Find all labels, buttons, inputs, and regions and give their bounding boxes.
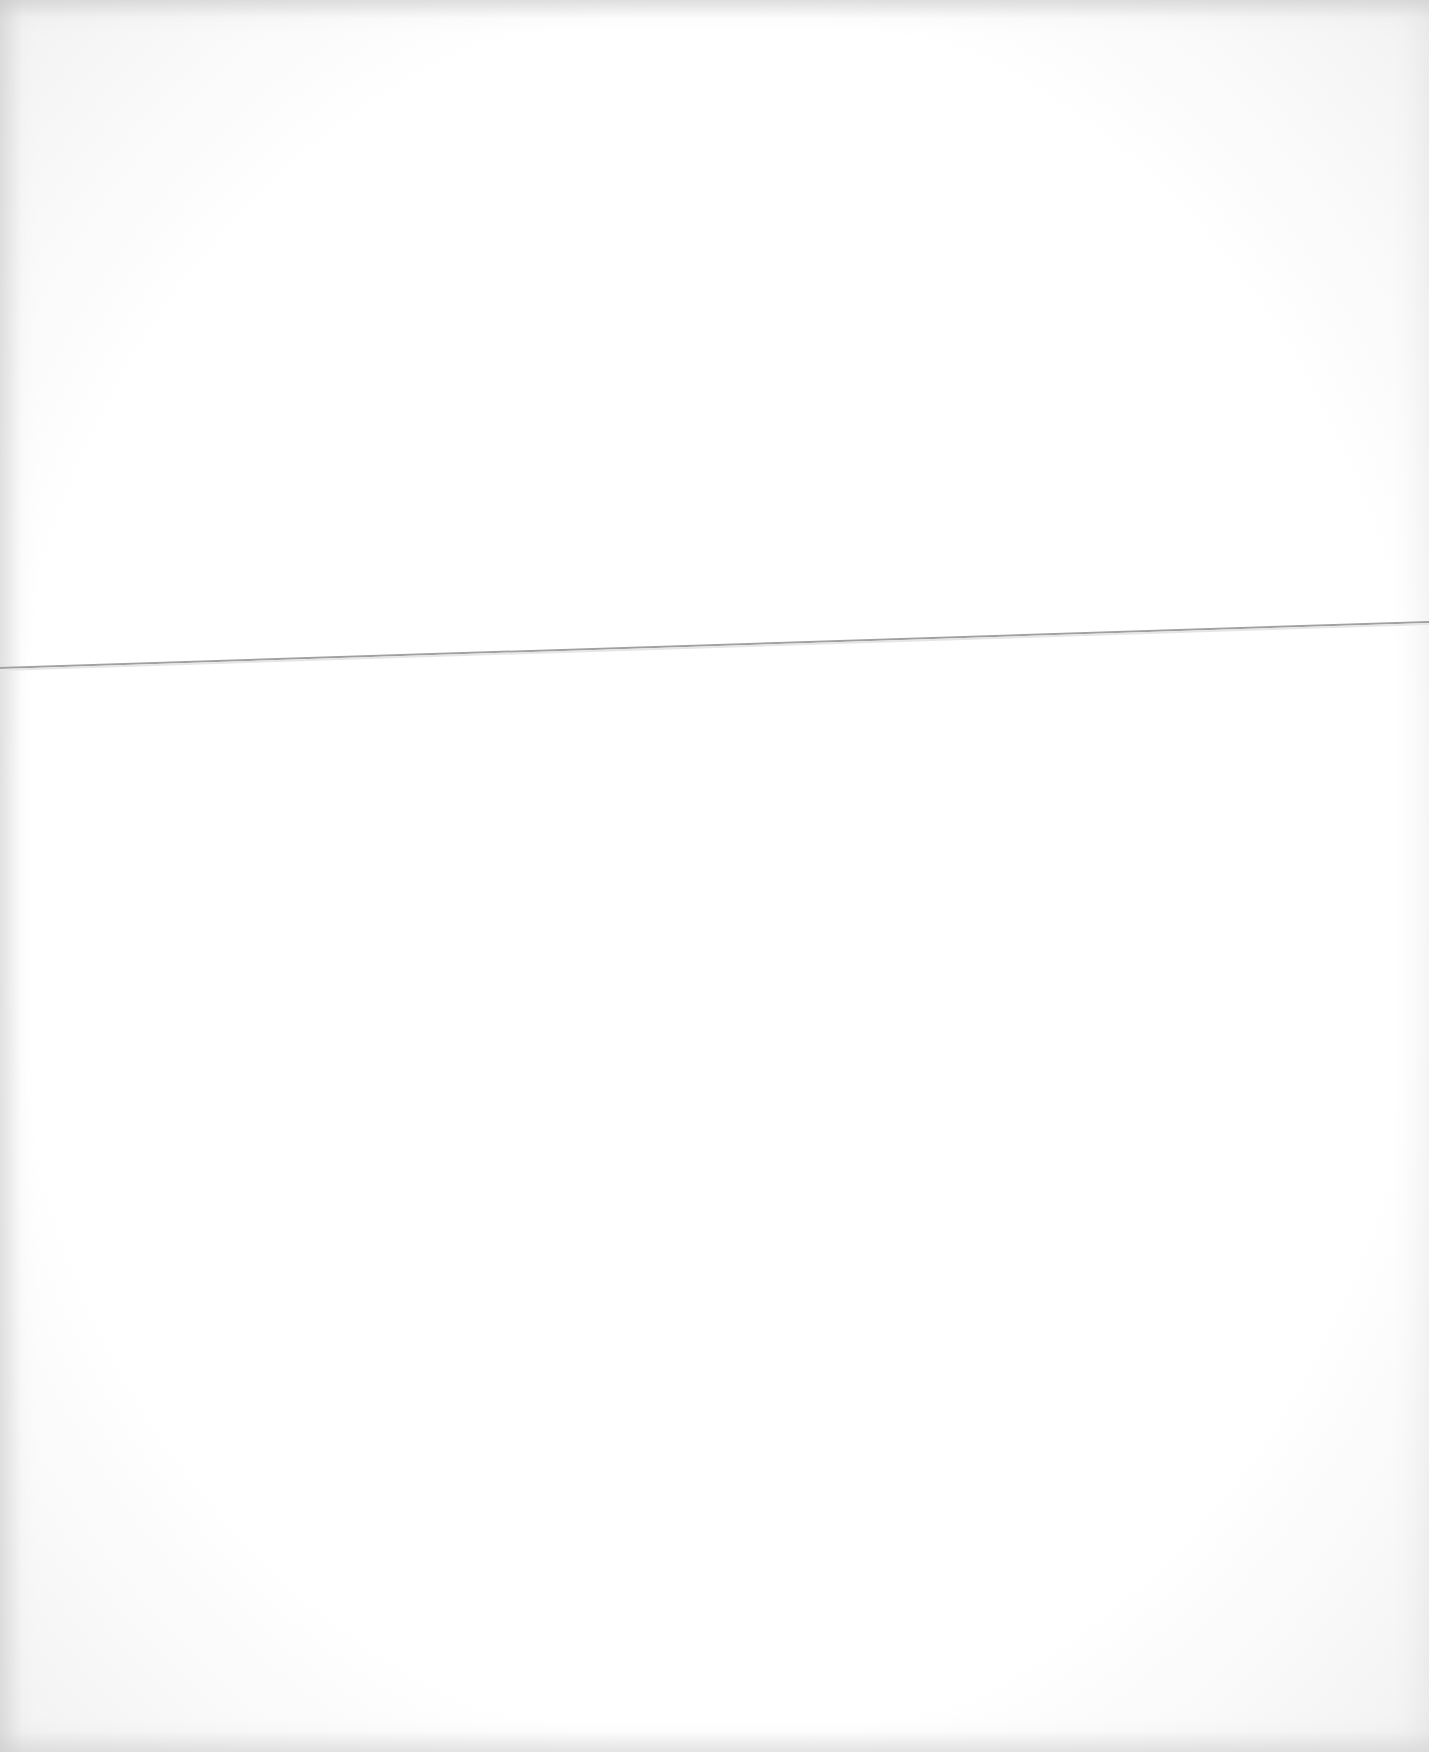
- scan-edge-shadow-top: [0, 0, 1429, 18]
- scan-edge-shadow-left: [0, 0, 22, 1752]
- blank-page: [0, 0, 1429, 1752]
- fold-line: [0, 0, 1429, 1752]
- scan-edge-shadow-bottom: [0, 1732, 1429, 1752]
